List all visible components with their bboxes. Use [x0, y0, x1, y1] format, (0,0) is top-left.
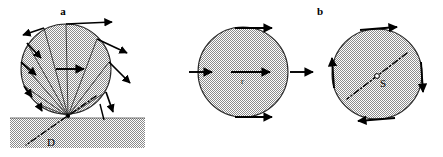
- figure-root: a D r: [0, 0, 443, 157]
- panel-a-group: a D: [10, 5, 145, 148]
- contact-tangent-tick: [100, 104, 104, 120]
- panel-b-rotation-group: b S: [317, 5, 423, 121]
- diagram-canvas: a D r: [0, 0, 443, 157]
- rotation-axis-center-marker: [375, 74, 380, 79]
- rotation-arrow-right: [421, 62, 423, 92]
- velocity-arrow-right: [109, 62, 130, 83]
- contact-point-marker: [66, 114, 70, 118]
- panel-b-translation-group: r: [189, 27, 313, 117]
- panel-b-label: b: [317, 5, 323, 17]
- velocity-arrow-lower-right: [106, 92, 113, 112]
- velocity-arrow-top: [66, 22, 112, 24]
- rotation-axis-label: S: [380, 77, 386, 89]
- translation-velocity-label: r: [241, 77, 244, 86]
- panel-a-label: a: [60, 5, 66, 17]
- contact-axis-label: D: [47, 136, 55, 148]
- ground-substrate: [10, 118, 145, 148]
